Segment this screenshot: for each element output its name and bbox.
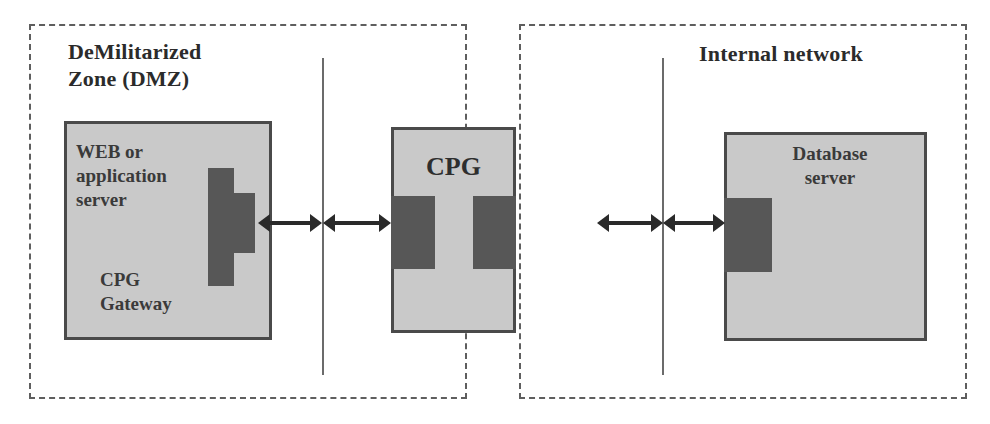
arrow-firewall-right-to-database [663,214,725,232]
arrowhead-right-icon [379,214,391,232]
arrow-shaft [332,221,382,225]
arrow-cpg-to-firewall-right [597,214,663,232]
cpg-gateway-label: CPG Gateway [100,268,230,316]
arrowhead-right-icon [713,214,725,232]
web-server-plug-connector-tab [208,193,255,253]
dmz-zone-title: DeMilitarized Zone (DMZ) [68,38,298,92]
arrow-firewall-left-to-cpg [323,214,391,232]
web-server-label: WEB or application server [76,140,206,212]
network-diagram: DeMilitarized Zone (DMZ) Internal networ… [0,0,990,424]
arrow-shaft [672,221,716,225]
database-server-socket-connector [724,198,772,272]
arrow-shaft [267,221,313,225]
arrowhead-right-icon [651,214,663,232]
arrowhead-right-icon [310,214,322,232]
cpg-label: CPG [391,155,516,179]
cpg-socket-connector-left [391,196,435,269]
cpg-socket-connector-right [473,196,516,269]
arrow-web-to-firewall-left [258,214,322,232]
internal-network-zone-title: Internal network [699,40,969,67]
arrow-shaft [606,221,654,225]
database-server-label: Database server [740,142,920,190]
